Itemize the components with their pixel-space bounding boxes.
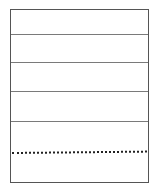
dotted-rule <box>12 151 147 154</box>
solid-rule-2 <box>11 62 148 63</box>
lined-paper-frame <box>10 9 149 183</box>
solid-rule-1 <box>11 34 148 35</box>
solid-rule-3 <box>11 91 148 92</box>
solid-rule-4 <box>11 121 148 122</box>
